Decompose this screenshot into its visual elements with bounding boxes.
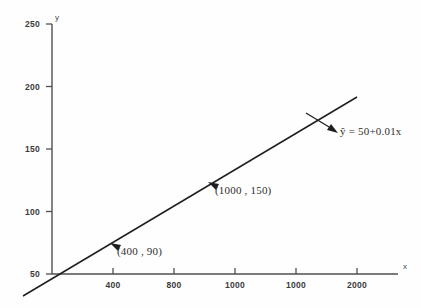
- x-tick-label-1: 400: [93, 280, 133, 290]
- regression-line: [23, 97, 357, 296]
- y-axis-label: y: [55, 13, 59, 22]
- point-label-1000-150: (1000 , 150): [215, 184, 271, 196]
- y-axis-ticks: [46, 24, 52, 274]
- equation-annotation: ŷ = 50+0.01x: [340, 125, 402, 137]
- x-tick-label-5: 2000: [337, 280, 377, 290]
- y-tick-label-100: 100: [14, 207, 40, 217]
- equation-body: = 50+0.01x: [346, 125, 402, 137]
- y-tick-label-150: 150: [14, 144, 40, 154]
- equation-y-hat: ŷ: [340, 125, 346, 137]
- x-axis-ticks: [113, 268, 357, 274]
- x-tick-label-4: 1000: [276, 280, 316, 290]
- y-tick-label-250: 250: [14, 19, 40, 29]
- chart-figure: 250 200 150 100 50 400 800 1000 1000 200…: [0, 0, 421, 308]
- point-callout-arrowheads: [110, 182, 219, 251]
- x-axis-label: x: [403, 262, 407, 271]
- x-tick-label-2: 800: [154, 280, 194, 290]
- x-tick-label-3: 1000: [215, 280, 255, 290]
- equation-callout-arrow: [306, 113, 338, 133]
- y-tick-label-200: 200: [14, 82, 40, 92]
- chart-plot-area: [0, 0, 421, 308]
- y-tick-label-50: 50: [14, 269, 40, 279]
- point-label-400-90: (400 , 90): [117, 245, 162, 257]
